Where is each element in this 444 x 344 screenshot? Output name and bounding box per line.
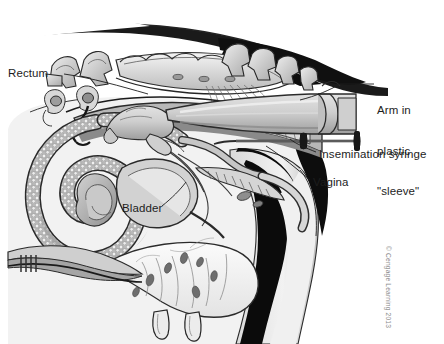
label-vagina: Vagina xyxy=(313,176,349,190)
label-arm-line3: "sleeve" xyxy=(377,185,419,199)
copyright-notice: © Cengage Learning 2013 xyxy=(382,246,396,328)
anatomy-figure: Rectum Arm in plastic "sleeve" Inseminat… xyxy=(0,0,444,344)
label-insemination-syringe: Insemination syringe xyxy=(319,148,426,162)
label-rectum: Rectum xyxy=(8,67,48,81)
label-arm-line1: Arm in xyxy=(377,104,419,118)
label-bladder: Bladder xyxy=(122,202,162,216)
